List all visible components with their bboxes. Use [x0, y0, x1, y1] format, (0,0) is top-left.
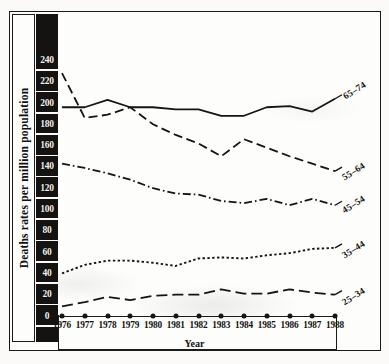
series-leader-35-44 — [335, 244, 342, 248]
x-tick-label: 1986 — [281, 320, 299, 330]
x-tick-marker — [151, 314, 156, 319]
x-tick-label: 1984 — [235, 320, 253, 330]
x-tick-label: 1981 — [167, 320, 185, 330]
x-tick-label: 1985 — [258, 320, 276, 330]
x-tick-marker — [219, 314, 224, 319]
x-tick-label: 1979 — [121, 320, 139, 330]
series-leader-55-64 — [335, 167, 342, 171]
x-tick-label: 1987 — [303, 320, 321, 330]
x-tick-marker — [333, 314, 338, 319]
x-tick-label: 1980 — [144, 320, 162, 330]
series-line-55-64 — [62, 73, 335, 171]
series-lines-layer — [0, 0, 389, 364]
x-tick-marker — [128, 314, 133, 319]
x-tick-marker — [264, 314, 269, 319]
series-leader-65-74 — [335, 95, 342, 99]
x-tick-marker — [173, 314, 178, 319]
x-tick-marker — [196, 314, 201, 319]
x-tick-marker — [105, 314, 110, 319]
series-leader-45-54 — [335, 201, 342, 205]
x-tick-label: 1978 — [99, 320, 117, 330]
series-line-65-74 — [62, 99, 335, 116]
x-axis-title: Year — [0, 338, 389, 349]
x-tick-marker — [242, 314, 247, 319]
x-tick-label: 1983 — [212, 320, 230, 330]
x-tick-marker — [287, 314, 292, 319]
x-tick-marker — [310, 314, 315, 319]
series-line-35-44 — [62, 248, 335, 274]
x-tick-label: 1976 — [53, 320, 71, 330]
chart-figure: Deaths rates per million population 2402… — [0, 0, 389, 364]
x-tick-label: 1977 — [76, 320, 94, 330]
x-tick-label: 1988 — [326, 320, 344, 330]
x-tick-label: 1982 — [190, 320, 208, 330]
series-line-45-54 — [62, 164, 335, 206]
x-tick-marker — [60, 314, 65, 319]
series-leader-25-34 — [335, 291, 342, 295]
x-tick-marker — [82, 314, 87, 319]
series-line-25-34 — [62, 289, 335, 306]
